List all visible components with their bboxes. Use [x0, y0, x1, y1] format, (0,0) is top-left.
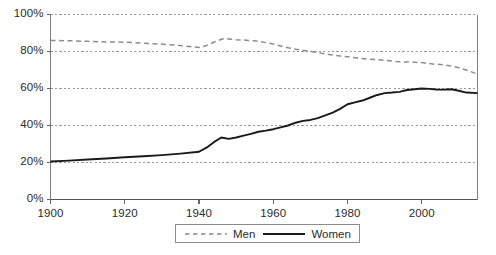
y-tick-label: 100% [14, 7, 44, 19]
y-tick-label: 40% [20, 118, 43, 130]
chart-legend: MenWomen [175, 224, 360, 243]
x-tick-label: 1940 [169, 207, 229, 219]
x-tick-label: 1980 [318, 207, 378, 219]
y-tick-label: 20% [20, 155, 43, 167]
y-tick-label: 0% [27, 192, 44, 204]
x-tick-label: 1920 [95, 207, 155, 219]
series-line-men [51, 39, 478, 75]
legend-item-men[interactable]: Men [184, 228, 255, 240]
y-tick-label: 80% [20, 44, 43, 56]
axis-ticks [47, 15, 422, 204]
legend-line-swatch-men-icon [184, 229, 228, 239]
x-tick-label: 2000 [392, 207, 452, 219]
legend-line-swatch-women-icon [262, 229, 306, 239]
y-tick-label: 60% [20, 81, 43, 93]
legend-label: Men [233, 228, 255, 240]
x-tick-label: 1900 [21, 207, 81, 219]
legend-item-women[interactable]: Women [262, 228, 350, 240]
line-chart: 100%80%60%40%20%0% 190019201940196019802… [0, 0, 496, 255]
data-series [51, 39, 478, 162]
legend-label: Women [311, 228, 350, 240]
x-tick-label: 1960 [243, 207, 303, 219]
